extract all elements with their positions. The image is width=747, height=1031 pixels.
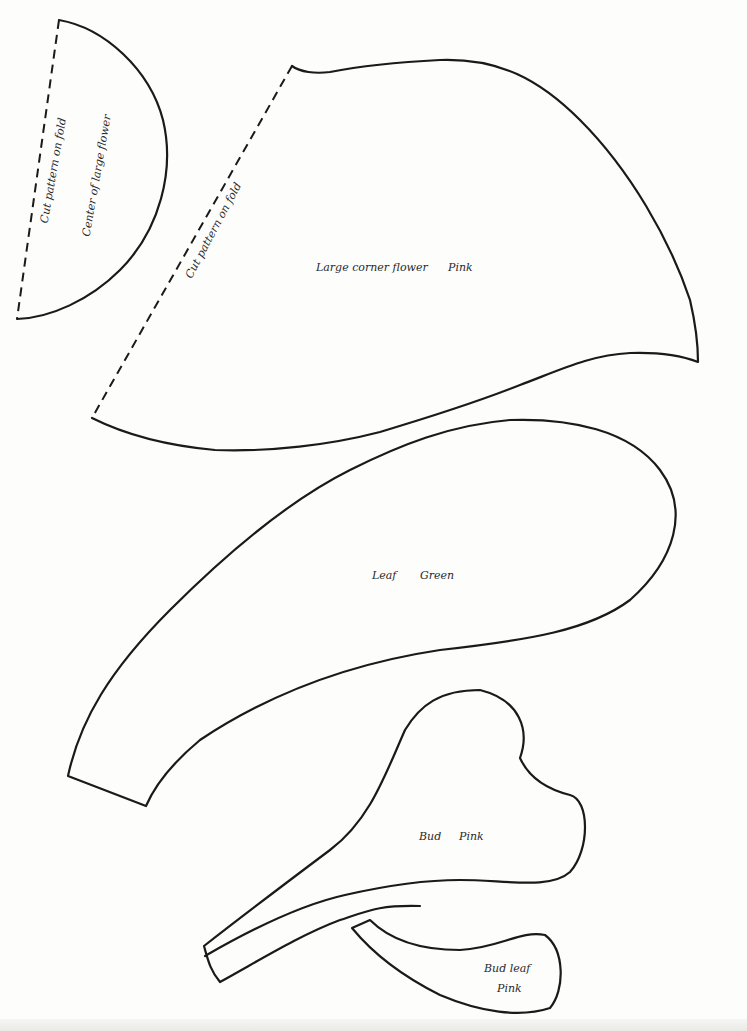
leaf-color: Green [420, 570, 454, 581]
large-corner-flower-color: Pink [448, 262, 473, 273]
bud-label: Bud [419, 831, 441, 842]
bud-leaf-color: Pink [497, 983, 522, 994]
leaf-piece [68, 420, 676, 806]
large-corner-flower-piece [92, 60, 698, 450]
large-corner-flower-label: Large corner flower [316, 262, 428, 273]
bud-color: Pink [459, 831, 484, 842]
pattern-pieces-drawing [0, 0, 747, 1031]
pattern-page: Cut pattern on fold Center of large flow… [0, 0, 747, 1031]
bud-leaf-label: Bud leaf [484, 963, 530, 974]
leaf-label: Leaf [372, 570, 396, 581]
